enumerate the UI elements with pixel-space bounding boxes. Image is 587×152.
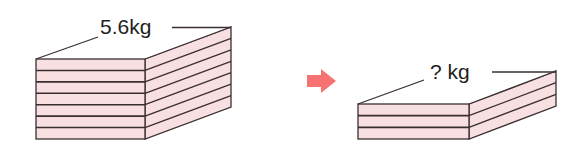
diagram-canvas: 5.6kg ? kg: [0, 0, 587, 152]
left-stack-weight-label: 5.6kg: [100, 15, 151, 38]
arrow-right-icon: [307, 69, 336, 93]
left-paper-stack: [36, 27, 231, 139]
right-stack-weight-label: ? kg: [430, 60, 470, 83]
